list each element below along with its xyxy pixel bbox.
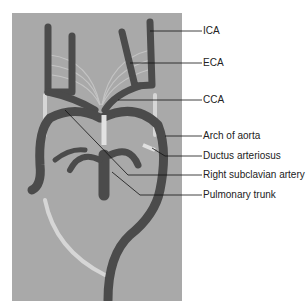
label-pulmonary-trunk: Pulmonary trunk (203, 189, 276, 201)
vessels (32, 22, 164, 300)
label-ica: ICA (203, 25, 220, 37)
label-arch-of-aorta: Arch of aorta (203, 130, 260, 142)
label-cca: CCA (203, 94, 224, 106)
label-eca: ECA (203, 57, 224, 69)
label-right-subclavian-artery: Right subclavian artery (203, 169, 305, 181)
ductus-highlight (143, 145, 155, 150)
label-ductus-arteriosus: Ductus arteriosus (203, 150, 281, 162)
